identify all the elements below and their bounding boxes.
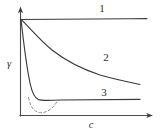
- y-axis-label: γ: [7, 58, 12, 69]
- axes-group: [18, 7, 153, 119]
- curve-2-label: 2: [103, 51, 109, 63]
- curve-1-path: [21, 19, 147, 20]
- curve-1-label: 1: [99, 2, 105, 14]
- curve-3-path: [21, 19, 140, 100]
- plot-canvas: 1 2 3 γ c: [0, 0, 162, 135]
- curve-3-label: 3: [101, 86, 107, 98]
- curve-2-path: [21, 19, 140, 84]
- x-axis-label: c: [89, 119, 94, 130]
- surface-tension-concentration-figure: 1 2 3 γ c: [0, 0, 162, 135]
